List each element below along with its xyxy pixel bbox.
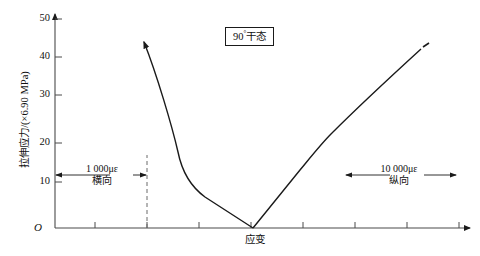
y-tick-label-40: 40: [24, 50, 50, 61]
x-axis-title: 应变: [228, 231, 282, 246]
condition-angle: 90: [233, 31, 244, 42]
annotation-transverse-scale: 1 000με 横向: [66, 163, 138, 186]
y-tick-label-50: 50: [24, 12, 50, 23]
annotation-longitudinal-direction: 纵向: [360, 175, 438, 187]
annotation-longitudinal-value: 10 000με: [360, 163, 438, 175]
y-tick-label-20: 20: [24, 136, 50, 147]
series-transverse-curve: [144, 42, 253, 228]
y-axis-ticks: [55, 19, 62, 182]
series-longitudinal-curve: [253, 49, 421, 228]
y-tick-label-10: 10: [24, 175, 50, 186]
annotation-longitudinal-scale: 10 000με 纵向: [360, 163, 438, 186]
series-longitudinal-end-cap: [423, 43, 429, 47]
y-tick-label-30: 30: [24, 88, 50, 99]
annotation-transverse-value: 1 000με: [66, 163, 138, 175]
annotation-transverse-direction: 横向: [66, 175, 138, 187]
origin-label: O: [34, 221, 42, 233]
condition-state: 干态: [246, 31, 266, 42]
condition-legend-box: 90°干态: [225, 27, 274, 46]
chart-figure: 拉伸应力/(×6.90 MPa) 应变 O 50 40 30 20 10 90°…: [0, 0, 480, 256]
x-axis-ticks: [95, 222, 459, 228]
